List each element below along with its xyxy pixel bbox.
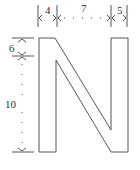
dim-label-6: 6: [9, 42, 15, 54]
arrow-icon: [107, 15, 110, 21]
arrow-icon: [18, 52, 26, 55]
dim-label-7: 7: [81, 2, 87, 14]
dim-label-4: 4: [45, 4, 51, 16]
arrow-icon: [18, 57, 26, 60]
arrow-icon: [53, 15, 56, 21]
arrow-icon: [18, 39, 26, 42]
arrow-icon: [58, 15, 61, 21]
arrow-icon: [18, 148, 26, 151]
letter-n-construction-diagram: 4 7 5 6 10: [0, 0, 140, 170]
arrow-icon: [112, 15, 115, 21]
letter-n-outline: [39, 38, 128, 152]
dim-label-10: 10: [5, 98, 17, 110]
dim-label-5: 5: [117, 4, 123, 16]
arrow-icon: [39, 15, 42, 21]
arrow-icon: [123, 15, 126, 21]
